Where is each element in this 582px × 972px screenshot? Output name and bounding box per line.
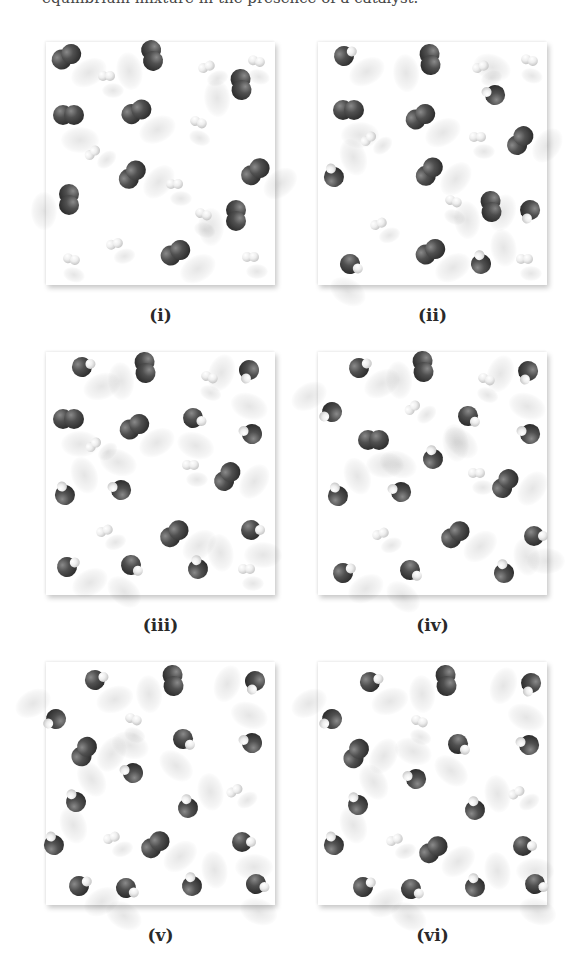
iodine-atom-icon <box>420 54 442 76</box>
figure-caption-clipped: equilibrium mixture in the presence of a… <box>42 0 418 7</box>
motion-blur-shadow <box>504 698 549 736</box>
motion-blur-shadow <box>484 663 522 708</box>
hydrogen-atom-icon <box>130 714 143 727</box>
iodine-atom-icon <box>344 100 364 120</box>
iodine-atom-icon <box>413 361 435 383</box>
panel-label-iv: (iv) <box>318 615 547 635</box>
iodine-atom-icon <box>231 79 253 101</box>
motion-blur-shadow <box>242 576 264 591</box>
iodine-atom-icon <box>436 675 458 697</box>
iodine-atom-icon <box>64 409 84 429</box>
hydrogen-atom-icon <box>69 254 81 266</box>
iodine-atom-icon <box>369 430 389 450</box>
panel-ii <box>318 42 547 285</box>
panel-iii <box>46 352 275 595</box>
motion-blur-shadow <box>170 191 192 206</box>
panel-label-vi: (vi) <box>318 925 547 945</box>
hydrogen-atom-icon <box>523 254 533 264</box>
motion-blur-shadow <box>520 266 542 281</box>
hydrogen-atom-icon <box>189 460 199 470</box>
panel-iv <box>318 352 547 595</box>
motion-blur-shadow <box>198 849 231 891</box>
iodine-atom-icon <box>59 195 79 215</box>
motion-blur-shadow <box>481 850 514 892</box>
motion-blur-shadow <box>505 387 550 425</box>
motion-blur-shadow <box>473 144 495 159</box>
hydrogen-atom-icon <box>105 71 115 81</box>
motion-blur-shadow <box>204 532 237 574</box>
motion-blur-shadow <box>428 749 474 794</box>
iodine-atom-icon <box>163 675 185 697</box>
motion-blur-shadow <box>487 227 520 269</box>
hydrogen-atom-icon <box>475 468 485 478</box>
hydrogen-atom-icon <box>255 525 265 535</box>
iodine-atom-icon <box>64 105 84 125</box>
iodine-atom-icon <box>226 211 246 231</box>
hydrogen-atom-icon <box>173 179 183 189</box>
motion-blur-shadow <box>102 83 124 98</box>
iodine-atom-icon <box>141 49 164 72</box>
motion-blur-shadow <box>233 458 277 505</box>
motion-blur-shadow <box>134 674 164 715</box>
motion-blur-shadow <box>112 246 138 267</box>
hydrogen-atom-icon <box>246 837 256 847</box>
motion-blur-shadow <box>526 122 570 169</box>
motion-blur-shadow <box>472 480 494 495</box>
hydrogen-atom-icon <box>538 531 548 541</box>
panel-vi <box>318 662 547 905</box>
motion-blur-shadow <box>380 575 426 620</box>
motion-blur-shadow <box>61 265 87 286</box>
panel-v <box>46 662 275 905</box>
hydrogen-atom-icon <box>254 56 266 68</box>
motion-blur-shadow <box>153 744 199 789</box>
motion-blur-shadow <box>173 427 218 465</box>
hydrogen-atom-icon <box>416 716 429 729</box>
motion-blur-shadow <box>511 465 555 512</box>
motion-blur-shadow <box>227 387 272 425</box>
hydrogen-atom-icon <box>527 55 539 67</box>
motion-blur-shadow <box>519 66 545 87</box>
motion-blur-shadow <box>407 674 437 715</box>
iodine-atom-icon <box>135 362 157 384</box>
motion-blur-shadow <box>208 661 246 706</box>
motion-blur-shadow <box>227 696 272 734</box>
panel-label-ii: (ii) <box>318 305 547 325</box>
motion-blur-shadow <box>186 127 212 149</box>
panel-i <box>46 42 275 285</box>
hydrogen-atom-icon <box>476 132 486 142</box>
hydrogen-atom-icon <box>195 117 208 130</box>
motion-blur-shadow <box>194 771 227 813</box>
hydrogen-atom-icon <box>527 841 537 851</box>
panel-label-i: (i) <box>46 305 275 325</box>
panel-label-iii: (iii) <box>46 615 275 635</box>
motion-blur-shadow <box>246 264 268 279</box>
motion-blur-shadow <box>391 53 421 94</box>
hydrogen-atom-icon <box>245 564 255 574</box>
motion-blur-shadow <box>31 192 57 230</box>
hydrogen-atom-icon <box>249 252 259 262</box>
panel-label-v: (v) <box>46 925 275 945</box>
motion-blur-shadow <box>186 472 208 487</box>
